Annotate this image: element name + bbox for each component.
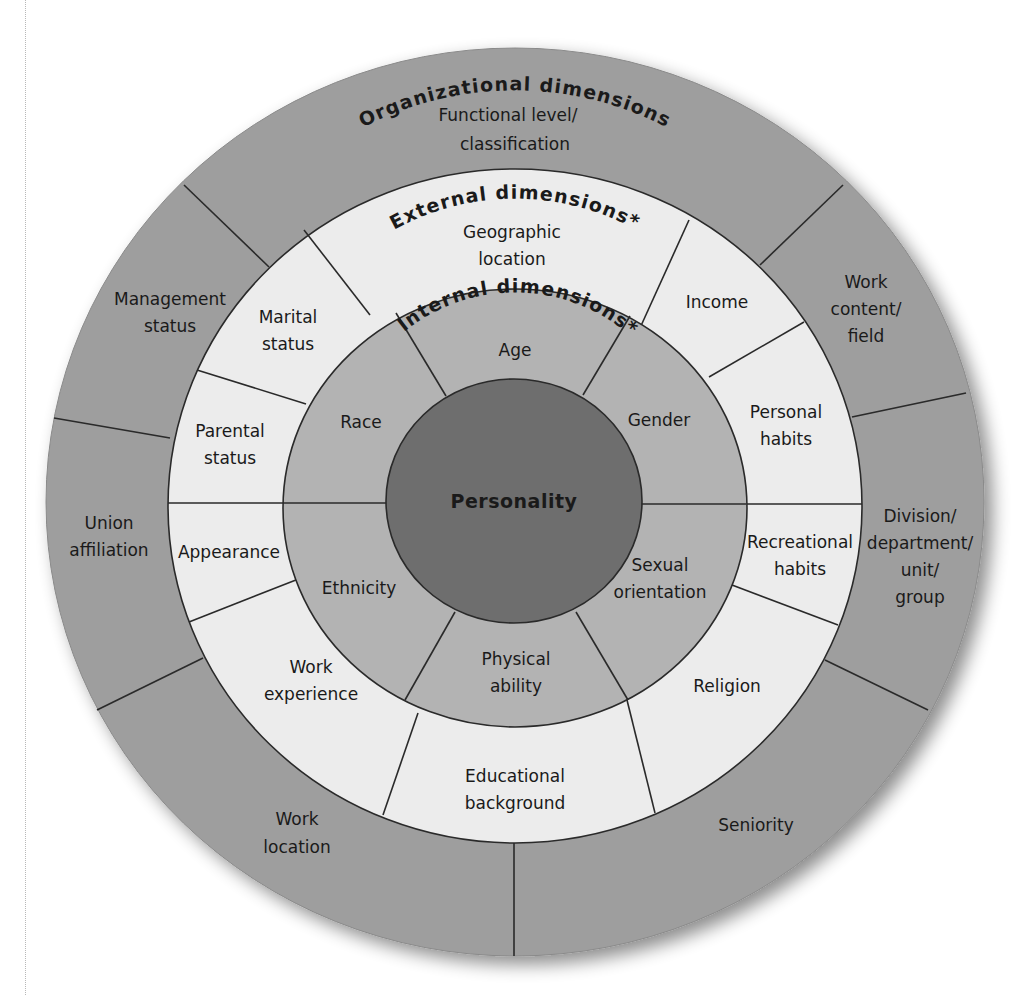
label-income: Income [686, 292, 749, 312]
label-sexual-2: orientation [614, 582, 707, 602]
label-geographic-1: Geographic [463, 222, 561, 242]
personality-label: Personality [451, 490, 578, 512]
label-educational-1: Educational [465, 766, 565, 786]
label-sexual-1: Sexual [632, 555, 689, 575]
label-physical-1: Physical [481, 649, 550, 669]
label-functional-1: Functional level/ [438, 105, 577, 125]
label-division-2: department/ [867, 533, 974, 553]
label-work-exp-1: Work [289, 657, 332, 677]
label-seniority: Seniority [718, 815, 794, 835]
label-division-3: unit/ [901, 560, 940, 580]
label-division-1: Division/ [883, 506, 956, 526]
label-work-content-3: field [848, 326, 885, 346]
label-management-1: Management [114, 289, 226, 309]
label-work-exp-2: experience [264, 684, 358, 704]
label-work-content-1: Work [844, 272, 887, 292]
label-religion: Religion [693, 676, 761, 696]
label-marital-1: Marital [259, 307, 318, 327]
label-work-location-1: Work [275, 809, 318, 829]
label-geographic-2: location [478, 249, 545, 269]
label-ethnicity: Ethnicity [322, 578, 396, 598]
label-physical-2: ability [490, 676, 542, 696]
label-parental-2: status [204, 448, 256, 468]
label-union-1: Union [84, 513, 133, 533]
diversity-wheel-diagram: Organizational dimensions External dimen… [0, 0, 1014, 995]
label-union-2: affiliation [69, 540, 148, 560]
label-recreational-1: Recreational [747, 532, 853, 552]
label-functional-2: classification [460, 134, 570, 154]
label-personal-2: habits [760, 429, 812, 449]
label-parental-1: Parental [195, 421, 265, 441]
label-age: Age [499, 340, 532, 360]
label-work-content-2: content/ [831, 299, 902, 319]
label-work-location-2: location [263, 837, 330, 857]
label-educational-2: background [465, 793, 566, 813]
label-recreational-2: habits [774, 559, 826, 579]
label-division-4: group [895, 587, 944, 607]
label-appearance: Appearance [178, 542, 280, 562]
label-marital-2: status [262, 334, 314, 354]
label-race: Race [340, 412, 382, 432]
label-personal-1: Personal [750, 402, 822, 422]
label-gender: Gender [628, 410, 691, 430]
label-management-2: status [144, 316, 196, 336]
